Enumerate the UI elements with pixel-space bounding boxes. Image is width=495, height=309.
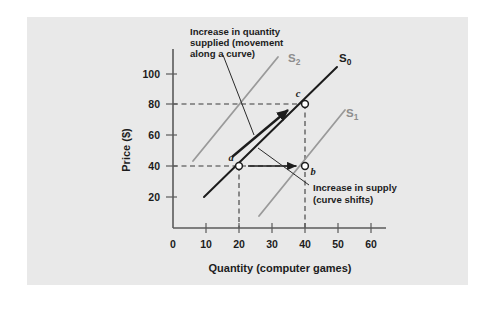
x-tick-label-40: 40: [299, 238, 311, 250]
point-a-marker: [236, 163, 243, 170]
y-tick-label-80: 80: [148, 98, 160, 110]
y-tick-label-20: 20: [148, 191, 160, 203]
y-tick-label-40: 40: [148, 160, 160, 172]
point-c-label: c: [296, 88, 301, 99]
y-tick-label-60: 60: [148, 129, 160, 141]
curve-label-s1: S1: [346, 107, 359, 122]
annotation-increase-quantity-supplied: Increase in quantity supplied (movement …: [190, 26, 284, 59]
annotation-increase-in-supply: Increase in supply (curve shifts): [313, 182, 397, 205]
x-tick-label-0: 0: [170, 238, 176, 250]
quantity-supplied-leader: [223, 55, 254, 135]
curve-labels: S0 S2 S1: [288, 52, 359, 122]
annotation-qty-line-1: Increase in quantity: [190, 26, 281, 37]
figure-root: 100 80 60 40 20 0 10 20 30 40 50 60 Quan…: [0, 0, 495, 309]
annotation-qty-line-3: along a curve): [190, 48, 255, 59]
curve-s0: [204, 67, 337, 197]
point-b-marker: [302, 163, 309, 170]
x-tick-label-50: 50: [332, 238, 344, 250]
x-tick-label-60: 60: [365, 238, 377, 250]
curve-label-s0: S0: [339, 52, 352, 67]
y-tick-labels: 100 80 60 40 20: [142, 68, 160, 203]
x-axis-title: Quantity (computer games): [208, 262, 351, 274]
axes: [166, 49, 386, 233]
annotation-supply-line-2: (curve shifts): [313, 194, 373, 205]
curve-label-s0-subscript: 0: [347, 57, 352, 67]
y-tick-label-100: 100: [142, 68, 160, 80]
annotation-qty-line-2: supplied (movement: [190, 37, 284, 48]
curve-label-s2: S2: [288, 52, 301, 67]
point-b-label: b: [310, 166, 315, 177]
point-c-marker: [302, 101, 309, 108]
x-tick-labels: 0 10 20 30 40 50 60: [170, 238, 377, 250]
curve-label-s1-subscript: 1: [354, 112, 359, 122]
x-tick-label-30: 30: [266, 238, 278, 250]
y-axis-title: Price ($): [120, 128, 132, 172]
x-tick-label-10: 10: [200, 238, 212, 250]
curve-label-s2-subscript: 2: [296, 57, 301, 67]
curve-s2: [193, 57, 278, 161]
annotation-supply-line-1: Increase in supply: [313, 182, 397, 193]
supply-curve-chart: 100 80 60 40 20 0 10 20 30 40 50 60 Quan…: [0, 0, 495, 309]
x-tick-label-20: 20: [233, 238, 245, 250]
point-a-label: a: [228, 152, 233, 163]
